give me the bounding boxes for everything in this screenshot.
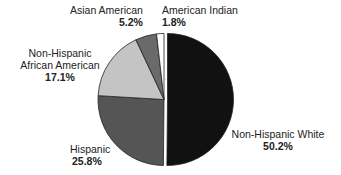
label-asian-american-name: Asian American <box>70 4 143 16</box>
label-hispanic-pct: 25.8% <box>72 155 102 167</box>
label-american-indian-pct: 1.8% <box>162 16 186 28</box>
label-non-hispanic-white-pct: 50.2% <box>228 140 328 152</box>
label-hispanic-name: Hispanic <box>70 143 110 155</box>
label-asian-american-pct: 5.2% <box>119 16 143 28</box>
label-african-american: Non-Hispanic African American 17.1% <box>18 47 102 83</box>
label-non-hispanic-white-name: Non-Hispanic White <box>228 128 328 140</box>
pie-slice-hispanic <box>98 96 164 166</box>
label-african-american-pct: 17.1% <box>18 71 102 83</box>
label-african-american-line1: Non-Hispanic <box>18 47 102 59</box>
pie-slice-non-hispanic-white <box>167 34 234 166</box>
label-african-american-line2: African American <box>18 59 102 71</box>
label-american-indian-name: American Indian <box>162 4 238 16</box>
label-non-hispanic-white: Non-Hispanic White 50.2% <box>228 128 328 152</box>
